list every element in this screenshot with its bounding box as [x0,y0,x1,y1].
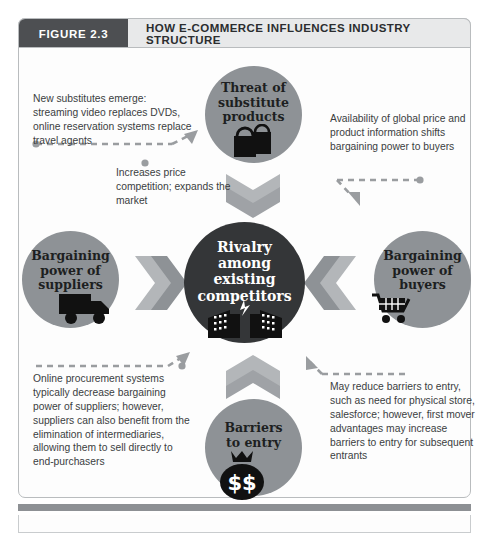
node-suppliers-label: Bargaining power of suppliers [31,249,110,293]
buildings-clash-icon [204,298,286,340]
callout-substitutes: New substitutes emerge: streaming video … [33,92,193,148]
node-threat-label: Threat of substitute products [218,81,289,125]
node-barriers-line2: to entry [226,435,281,450]
node-barriers-to-entry[interactable]: Barriers to entry $$ [205,399,302,496]
figure-header: FIGURE 2.3 HOW E-COMMERCE INFLUENCES IND… [18,18,471,47]
node-threat-of-substitutes[interactable]: Threat of substitute products [205,66,302,163]
node-bargaining-power-suppliers[interactable]: Bargaining power of suppliers [22,231,119,328]
node-suppliers-line2: power of [40,263,100,278]
node-threat-line1: Threat of [221,80,286,95]
money-bag-amount: $$ [227,471,256,495]
node-rivalry-line3: existing [213,271,275,287]
callout-buyers: Availability of global price and product… [330,112,470,154]
node-rivalry-label: Rivalry among existing competitors [197,239,291,304]
node-buyers-line3: buyers [399,277,446,292]
figure-container: FIGURE 2.3 HOW E-COMMERCE INFLUENCES IND… [0,0,489,533]
node-buyers-line2: power of [392,263,452,278]
node-rivalry-line2: among [218,255,271,271]
shopping-bags-icon [231,124,279,158]
chevron-right-suppliers-icon [133,252,189,318]
node-barriers-line1: Barriers [224,420,282,435]
header-divider [18,47,471,48]
node-threat-line3: products [223,109,285,124]
node-suppliers-line1: Bargaining [31,248,110,263]
delivery-truck-icon [58,292,114,326]
figure-number-badge: FIGURE 2.3 [19,19,128,47]
node-buyers-label: Bargaining power of buyers [383,249,462,293]
footer-rule [18,504,471,511]
callout-barriers: May reduce barriers to entry, such as ne… [330,380,480,463]
callout-price-competition: Increases price competition; expands the… [116,166,236,208]
node-rivalry-among-competitors[interactable]: Rivalry among existing competitors [184,222,305,343]
figure-title: HOW E-COMMERCE INFLUENCES INDUSTRY STRUC… [128,19,470,47]
footer-frame [18,515,471,533]
node-bargaining-power-buyers[interactable]: Bargaining power of buyers [374,231,471,328]
node-barriers-label: Barriers to entry [224,421,282,450]
node-suppliers-line3: suppliers [38,277,103,292]
node-threat-line2: substitute [218,95,289,110]
money-bag-icon: $$ [211,449,273,501]
callout-suppliers: Online procurement systems typically dec… [33,372,193,469]
node-buyers-line1: Bargaining [383,248,462,263]
shopping-cart-icon [370,291,420,327]
chevron-left-buyers-icon [302,252,358,318]
node-rivalry-line1: Rivalry [217,239,272,255]
